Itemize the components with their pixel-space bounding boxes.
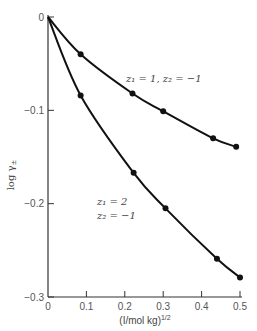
x-axis-label: (I/mol kg)1/2 (119, 314, 171, 326)
chart: 0−0.1−0.2−0.300.10.20.30.40.5z₁ = 1, z₂ … (0, 0, 257, 331)
data-point (78, 51, 84, 57)
data-point (163, 205, 169, 211)
data-point (131, 170, 137, 176)
x-tick-label: 0.2 (118, 301, 132, 312)
y-tick-label: 0 (38, 12, 44, 23)
data-point (237, 274, 243, 280)
data-point (214, 256, 220, 262)
data-point (78, 92, 84, 98)
y-tick-label: −0.1 (24, 105, 44, 116)
data-point (160, 108, 166, 114)
data-point (233, 144, 239, 150)
x-tick-label: 0.1 (79, 301, 93, 312)
series-line-2 (48, 17, 240, 277)
x-tick-label: 0.5 (233, 301, 247, 312)
data-point (210, 135, 216, 141)
lower-curve-label-z1: z₁ = 2 (96, 196, 127, 207)
x-tick-label: 0 (45, 301, 51, 312)
x-tick-label: 0.4 (195, 301, 209, 312)
upper-curve-label: z₁ = 1, z₂ = −1 (125, 73, 202, 84)
y-axis-label: log γ± (5, 160, 18, 191)
x-tick-label: 0.3 (156, 301, 170, 312)
y-tick-label: −0.3 (24, 292, 44, 303)
lower-curve-label-z2: z₂ = −1 (96, 210, 136, 221)
y-tick-label: −0.2 (24, 198, 44, 209)
data-point (129, 91, 135, 97)
